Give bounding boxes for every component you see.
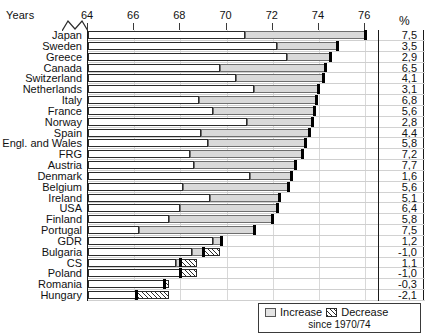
bar-end-cap — [308, 128, 311, 138]
bar-end-cap — [253, 225, 256, 235]
bar-increase-segment — [236, 74, 324, 82]
bar-base-segment — [88, 129, 201, 137]
bar-row — [88, 149, 379, 160]
bar-row — [88, 225, 379, 236]
bar-decrease-segment — [137, 291, 169, 299]
bar-increase-segment — [199, 96, 317, 104]
bar-row — [88, 193, 379, 204]
bar-end-cap — [276, 203, 279, 213]
bar-base-segment — [88, 150, 190, 158]
bar-increase-segment — [213, 107, 315, 115]
bar-increase-segment — [220, 64, 326, 72]
x-tick-label-66: 66 — [127, 9, 139, 21]
bar-end-cap — [179, 268, 182, 278]
bar-base-segment — [88, 107, 213, 115]
bar-base-segment — [88, 42, 277, 50]
bar-base-segment — [88, 280, 164, 288]
x-tick-label-68: 68 — [173, 9, 185, 21]
bar-base-segment — [88, 96, 199, 104]
bar-base-segment — [88, 53, 287, 61]
plot-area — [87, 30, 378, 301]
bar-base-segment — [88, 161, 194, 169]
bar-end-cap — [294, 160, 297, 170]
value-column-header-percent: % — [399, 14, 410, 28]
bar-increase-segment — [210, 194, 279, 202]
bar-end-cap — [311, 117, 314, 127]
bar-increase-segment — [277, 42, 337, 50]
bar-end-cap — [278, 193, 281, 203]
bar-row — [88, 63, 379, 74]
legend-label-increase: Increase — [280, 306, 322, 318]
category-label-hungary: Hungary — [40, 290, 82, 301]
bar-base-segment — [88, 64, 220, 72]
bar-decrease-segment — [203, 248, 219, 256]
bar-base-segment — [88, 269, 180, 277]
bar-row — [88, 290, 379, 301]
x-tick-label-64: 64 — [81, 9, 93, 21]
bar-increase-segment — [208, 139, 305, 147]
bar-increase-segment — [194, 161, 296, 169]
bar-increase-segment — [169, 215, 273, 223]
x-tick-label-72: 72 — [266, 9, 278, 21]
bar-end-cap — [364, 30, 367, 40]
bar-row — [88, 236, 379, 247]
row-separator — [88, 300, 379, 301]
bar-base-segment — [88, 194, 210, 202]
bar-end-cap — [179, 258, 182, 268]
x-tick-mark-64 — [87, 23, 88, 30]
bar-end-cap — [135, 290, 138, 300]
category-label-greece: Greece — [46, 52, 82, 63]
bar-base-segment — [88, 172, 250, 180]
bar-increase-segment — [183, 183, 289, 191]
bar-row — [88, 84, 379, 95]
bar-end-cap — [290, 171, 293, 181]
bar-base-segment — [88, 237, 213, 245]
bar-increase-segment — [247, 118, 312, 126]
x-tick-label-76: 76 — [358, 9, 370, 21]
chart-legend: Increase Decrease since 1970/74 — [258, 303, 421, 333]
bar-row — [88, 138, 379, 149]
bar-row — [88, 30, 379, 41]
bar-base-segment — [88, 118, 247, 126]
bar-increase-segment — [180, 204, 277, 212]
bar-base-segment — [88, 259, 176, 267]
bar-row — [88, 117, 379, 128]
x-tick-mark-76 — [364, 23, 365, 30]
bar-row — [88, 160, 379, 171]
x-tick-mark-68 — [179, 23, 180, 30]
category-label-bulgaria: Bulgaria — [42, 247, 82, 258]
x-tick-mark-70 — [226, 23, 227, 30]
axis-title-years: Years — [6, 9, 34, 21]
bar-base-segment — [88, 139, 208, 147]
bar-end-cap — [304, 138, 307, 148]
bar-row — [88, 268, 379, 279]
bar-end-cap — [271, 214, 274, 224]
value-column: 7,53,52,96,54,13,16,85,62,84,45,87,27,71… — [378, 30, 424, 301]
bar-end-cap — [329, 52, 332, 62]
bar-base-segment — [88, 204, 180, 212]
bar-row — [88, 214, 379, 225]
bar-end-cap — [163, 279, 166, 289]
value-row-separator — [379, 300, 425, 301]
legend-label-decrease: Decrease — [341, 306, 388, 318]
bar-increase-segment — [190, 150, 303, 158]
category-label-belgium: Belgium — [42, 182, 82, 193]
bar-end-cap — [301, 149, 304, 159]
bar-decrease-segment — [180, 259, 196, 267]
x-tick-mark-66 — [133, 23, 134, 30]
x-tick-label-70: 70 — [219, 9, 231, 21]
bar-row — [88, 73, 379, 84]
bar-decrease-segment — [180, 269, 196, 277]
bar-end-cap — [317, 84, 320, 94]
bar-end-cap — [313, 106, 316, 116]
bar-base-segment — [88, 183, 183, 191]
bar-base-segment — [88, 31, 245, 39]
bar-end-cap — [336, 41, 339, 51]
bar-increase-segment — [287, 53, 331, 61]
bar-increase-segment — [201, 129, 310, 137]
bar-increase-segment — [250, 172, 292, 180]
bar-end-cap — [322, 73, 325, 83]
bar-row — [88, 41, 379, 52]
bar-base-segment — [88, 74, 236, 82]
